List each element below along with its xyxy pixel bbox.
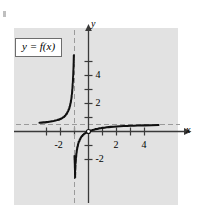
y-tick-label: 2: [96, 97, 101, 108]
corner-tick-mark: [3, 11, 6, 17]
x-tick-label: 2: [114, 139, 119, 150]
function-label-box: y = f(x): [15, 38, 62, 57]
function-graph-figure: y = f(x) y x -22442-2: [0, 0, 200, 217]
y-axis-label: y: [91, 18, 95, 29]
plot-canvas: [0, 0, 200, 217]
origin-open-point: [87, 130, 91, 134]
x-tick-label: -2: [55, 139, 63, 150]
x-tick-label: 4: [142, 139, 147, 150]
y-tick-label: -2: [96, 153, 104, 164]
x-axis-label: x: [186, 124, 190, 135]
y-tick-label: 4: [96, 69, 101, 80]
